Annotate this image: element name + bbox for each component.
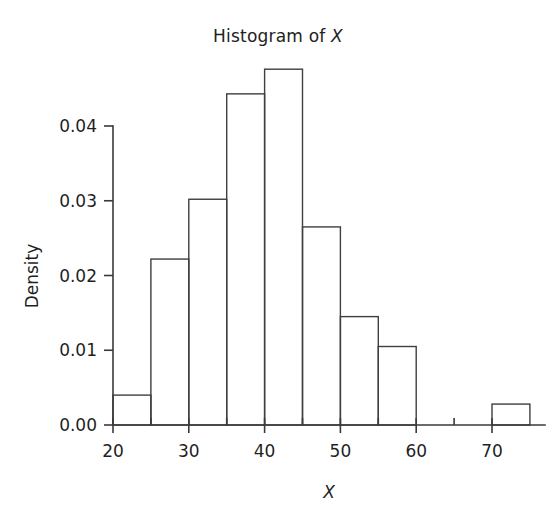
histogram-bars (113, 69, 530, 425)
y-axis-tick-labels: 0.000.010.020.030.04 (59, 116, 97, 435)
histogram-bar (340, 317, 378, 425)
x-axis-tick-label: 60 (405, 441, 427, 461)
y-axis-tick-label: 0.02 (59, 266, 97, 286)
histogram-figure: Histogram of X 203040506070 0.000.010.02… (0, 0, 556, 520)
plot-area: 203040506070 0.000.010.020.030.04 X Dens… (0, 0, 556, 520)
histogram-bar (113, 395, 151, 425)
y-axis-ticks (104, 126, 113, 425)
x-axis-tick-labels: 203040506070 (102, 441, 503, 461)
histogram-bar (303, 227, 341, 425)
y-axis-tick-label: 0.01 (59, 340, 97, 360)
x-axis-tick-label: 70 (481, 441, 503, 461)
x-axis-tick-label: 20 (102, 441, 124, 461)
histogram-bar (227, 94, 265, 425)
x-axis-title: X (322, 482, 335, 502)
x-axis-tick-label: 50 (330, 441, 352, 461)
y-axis-tick-label: 0.04 (59, 116, 97, 136)
y-axis-tick-label: 0.03 (59, 191, 97, 211)
histogram-bar (189, 199, 227, 425)
x-axis-tick-label: 30 (178, 441, 200, 461)
y-axis-title: Density (22, 244, 42, 309)
x-axis-tick-label: 40 (254, 441, 276, 461)
histogram-bar (151, 259, 189, 425)
histogram-bar (265, 69, 303, 425)
histogram-bar (378, 347, 416, 425)
y-axis-tick-label: 0.00 (59, 415, 97, 435)
histogram-bar (492, 404, 530, 425)
